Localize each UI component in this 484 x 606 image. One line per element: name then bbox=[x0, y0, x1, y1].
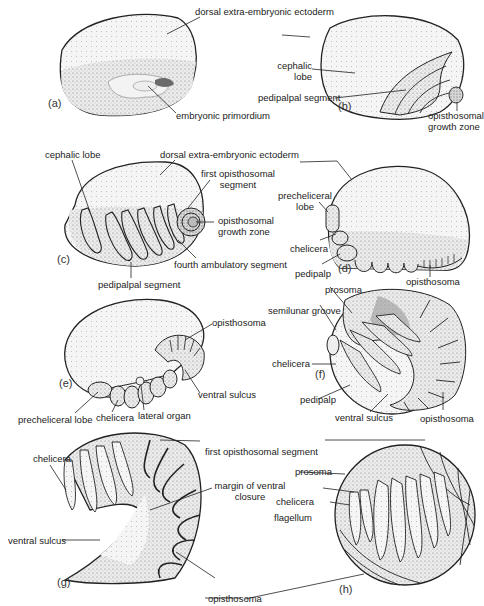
label-b-cephalic-2: lobe bbox=[268, 71, 312, 82]
label-b-growth-2: growth zone bbox=[428, 121, 480, 132]
label-d-pedipalp: pedipalp bbox=[295, 268, 331, 279]
label-h-prosoma: prosoma bbox=[295, 466, 332, 477]
label-e-lateral: lateral organ bbox=[138, 410, 191, 421]
label-d-chelicera: chelicera bbox=[290, 243, 328, 254]
label-g-opisthosoma: opisthosoma bbox=[208, 593, 262, 604]
panel-g-embryo bbox=[50, 433, 215, 584]
label-c-fourth: fourth ambulatory segment bbox=[174, 259, 287, 270]
label-e-prechel: precheliceral lobe bbox=[18, 414, 92, 425]
panel-d-embryo bbox=[319, 166, 469, 277]
label-f-pedipalp: pedipalp bbox=[300, 394, 336, 405]
label-c-growth-2: growth zone bbox=[218, 226, 270, 237]
label-d-prechel-2: lobe bbox=[275, 201, 335, 212]
label-b-growth-1: opisthosomal bbox=[428, 110, 484, 121]
label-a-dorsal: dorsal extra-embryonic ectoderm bbox=[195, 6, 334, 17]
label-f-chelicera: chelicera bbox=[272, 358, 310, 369]
panel-h-embryo bbox=[205, 440, 475, 599]
label-h-flagellum: flagellum bbox=[274, 512, 312, 523]
label-c-cephalic: cephalic lobe bbox=[45, 149, 100, 160]
panel-tag-g: (g) bbox=[57, 576, 70, 588]
panel-tag-e: (e) bbox=[59, 377, 72, 389]
label-c-first-1: first opisthosomal bbox=[188, 168, 288, 179]
label-c-dorsal: dorsal extra-embryonic ectoderm bbox=[160, 149, 299, 160]
label-f-prosoma: prosoma bbox=[325, 284, 362, 295]
label-f-ventral: ventral sulcus bbox=[335, 412, 393, 423]
label-e-ventral: ventral sulcus bbox=[198, 389, 256, 400]
panel-tag-h: (h) bbox=[339, 583, 352, 595]
label-g-chelicera: chelicera bbox=[33, 453, 71, 464]
panel-tag-d: (d) bbox=[338, 262, 351, 274]
panel-a-embryo bbox=[60, 14, 200, 115]
label-g-ventral: ventral sulcus bbox=[8, 535, 66, 546]
label-g-first: first opisthosomal segment bbox=[205, 446, 318, 457]
label-e-opisthosoma: opisthosoma bbox=[212, 317, 266, 328]
panel-tag-c: (c) bbox=[57, 253, 70, 265]
label-d-opisthosoma: opisthosoma bbox=[406, 276, 460, 287]
label-d-prechel-1: precheliceral bbox=[275, 190, 335, 201]
label-c-pedipalpal: pedipalpal segment bbox=[98, 279, 180, 290]
label-a-embryonic: embryonic primordium bbox=[176, 110, 270, 121]
panel-e-embryo bbox=[65, 299, 212, 413]
panel-tag-f: (f) bbox=[315, 368, 325, 380]
label-f-semilunar: semilunar groove bbox=[268, 305, 341, 316]
label-h-chelicera: chelicera bbox=[276, 496, 314, 507]
panel-tag-a: (a) bbox=[48, 97, 61, 109]
label-g-margin-1: margin of ventral bbox=[210, 480, 290, 491]
label-c-growth-1: opisthosomal bbox=[218, 215, 274, 226]
label-f-opisthosoma: opisthosoma bbox=[420, 413, 474, 424]
label-b-cephalic-1: cephalic bbox=[268, 60, 312, 71]
label-b-pedipalpal: pedipalpal segment bbox=[258, 92, 340, 103]
label-e-chelicera: chelicera bbox=[96, 412, 134, 423]
label-c-first-2: segment bbox=[188, 179, 288, 190]
